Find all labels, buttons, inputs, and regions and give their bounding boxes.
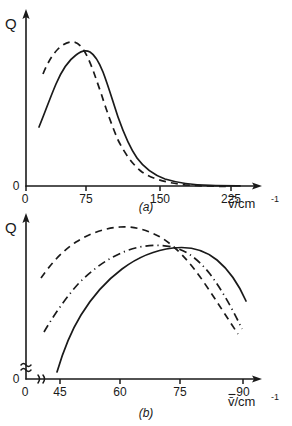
panel-b-solid-curve (57, 248, 246, 373)
panel-a: Q 0 0 75 150 225 v̄/cm -1 (0, 0, 292, 212)
panel-b-caption: (b) (139, 406, 154, 420)
svg-text:v̄/cm: v̄/cm (228, 394, 255, 409)
panel-a-dashed-curve (43, 42, 228, 187)
panel-b: Q 0 0 45 60 75 90 v̄/cm -1 (b) (0, 205, 292, 426)
panel-b-tick-label-60: 60 (113, 385, 127, 399)
panel-b-x-axis-label: v̄/cm -1 (228, 392, 279, 409)
panel-b-plot: Q 0 0 45 60 75 90 v̄/cm -1 (b) (0, 205, 292, 426)
panel-b-dashed-curve (41, 227, 238, 334)
panel-a-plot: Q 0 0 75 150 225 v̄/cm -1 (0, 0, 292, 212)
panel-a-solid-curve (39, 51, 240, 186)
panel-a-y-zero-label: 0 (13, 179, 20, 193)
panel-b-x-zero-label: 0 (22, 385, 29, 399)
figure-container: Q 0 0 75 150 225 v̄/cm -1 (a) (0, 0, 292, 426)
panel-b-y-zero-label: 0 (13, 372, 20, 386)
panel-b-y-axis-label: Q (5, 219, 17, 236)
panel-b-tick-label-45: 45 (53, 385, 67, 399)
svg-text:-1: -1 (271, 392, 279, 402)
panel-b-dash-dot-curve (44, 245, 242, 332)
panel-a-y-axis-label: Q (5, 15, 17, 32)
panel-b-tick-label-75: 75 (173, 385, 187, 399)
